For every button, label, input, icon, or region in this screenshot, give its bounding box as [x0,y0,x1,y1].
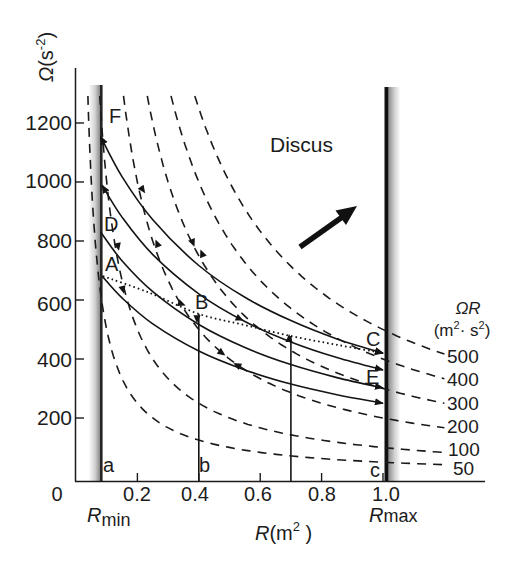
y-tick-label: 600 [37,292,72,315]
point-label-e: E [366,366,379,388]
y-tick-label: 400 [37,348,72,371]
iso-value-label: 300 [447,393,479,414]
x-axis-label: R(m2 ) [255,519,312,544]
r-max-label: Rmax [369,504,417,526]
r-min-boundary [89,85,103,481]
r-min-shade [89,85,100,481]
r-max-line [385,87,389,481]
point-label-a: A [105,253,119,275]
point-label-lower-b: b [199,454,210,476]
y-axis-unit-open: (s [35,50,57,67]
r-min-suffix: min [101,510,130,530]
r-max-symbol: R [369,504,383,526]
trajectory-series [101,137,383,404]
vertical-guide-lines [199,314,291,481]
r-min-label: Rmin [87,504,130,530]
y-tick-label: 1200 [25,111,72,134]
x-axis-unit-close: ) [300,522,312,544]
discus-omega-vs-r-chart: Discus Ω(s-2) 1200 1000 800 600 400 200 … [0,0,512,573]
chart-canvas: Discus Ω(s-2) 1200 1000 800 600 400 200 … [0,0,512,573]
iso-value-label: 500 [447,346,479,367]
arrowhead-icon [197,248,207,258]
r-max-shade [389,87,401,481]
iso-legend-unit: (m2· s2) [434,319,491,340]
iso-unit-open: (m [434,321,454,340]
x-tick-label: 0.2 [123,483,151,505]
series-d [101,232,383,388]
x-axis-unit-sup: 2 [293,519,300,534]
point-label-lower-c: c [370,459,380,481]
y-axis-symbol: Ω [35,67,57,82]
y-tick-label: 200 [37,406,72,429]
iso-unit-close: ) [485,321,491,340]
y-tick-label: 800 [37,229,72,252]
y-axis-unit-close: ) [35,32,57,39]
point-label-f: F [109,105,121,127]
direction-arrowheads [114,185,293,370]
direction-arrow-icon [300,206,357,247]
x-tick-label: 0 [51,483,62,505]
x-tick-label: 0.8 [308,483,336,505]
y-tick-label: 1000 [25,169,72,192]
x-axis-symbol: R [255,522,269,544]
y-axis-unit-sup: -2 [33,39,48,51]
iso-line-legend: ΩR (m2· s2) 500 400 300 200 100 50 [434,299,491,479]
x-tick-label: 1.0 [372,483,400,505]
r-max-boundary [385,87,401,481]
point-labels: F D A B C E a b c [103,105,380,481]
point-label-d: D [104,213,118,235]
point-label-c: C [366,328,380,350]
iso-value-label: 100 [448,439,480,460]
x-tick-label: 0.4 [181,483,209,505]
y-tick-labels: 1200 1000 800 600 400 200 [25,111,72,429]
iso-value-label: 400 [447,369,479,390]
x-axis-unit-open: (m [269,522,292,544]
x-tick-labels: 0 0.2 0.4 0.6 0.8 1.0 [51,483,399,505]
r-min-symbol: R [87,504,101,526]
iso-value-label: 200 [447,416,479,437]
iso-unit-mid: · s [460,321,479,340]
y-axis-label: Ω(s-2) [33,32,57,82]
iso-legend-title: ΩR [455,299,480,318]
point-label-b: B [195,291,208,313]
r-max-suffix: max [383,506,417,526]
point-label-lower-a: a [103,454,115,476]
x-tick-label: 0.6 [244,483,272,505]
iso-value-label: 50 [453,458,474,479]
discus-label: Discus [270,133,333,156]
r-min-line [100,85,103,481]
